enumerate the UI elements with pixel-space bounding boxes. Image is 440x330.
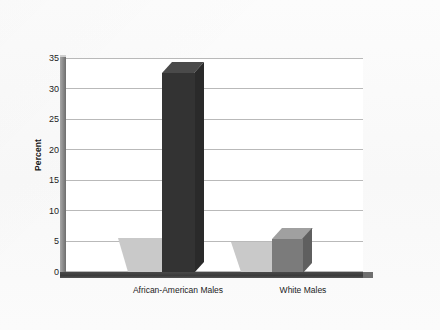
y-tick-label-30: 30 <box>33 85 59 94</box>
bar-side-face-white-males <box>302 228 314 276</box>
x-tick-label-african-american-males: African-American Males <box>103 285 253 295</box>
plot-area <box>66 58 363 272</box>
gridline-5 <box>66 241 363 242</box>
gridline-25 <box>66 119 363 120</box>
gridline-10 <box>66 210 363 211</box>
bar-shadow-white-males <box>231 242 277 274</box>
axis-floor <box>60 272 370 278</box>
bar-side-face-african-american-males <box>194 62 206 274</box>
axis-floor-right-edge <box>363 272 373 278</box>
bar-shadow-african-american-males <box>118 238 166 274</box>
y-axis-tick-labels: 35 30 25 20 15 10 5 0 <box>33 0 59 330</box>
bar-african-american-males[interactable] <box>162 73 195 273</box>
gridline-30 <box>66 88 363 89</box>
x-tick-label-white-males: White Males <box>238 285 368 295</box>
bar-chart-figure: Percent 35 30 25 20 15 10 5 0 <box>0 0 440 330</box>
gridline-35 <box>66 58 363 59</box>
bar-white-males[interactable] <box>272 239 303 273</box>
y-tick-label-35: 35 <box>33 54 59 63</box>
y-tick-label-25: 25 <box>33 115 59 124</box>
y-axis-wall <box>60 57 66 273</box>
y-tick-label-15: 15 <box>33 176 59 185</box>
gridline-20 <box>66 149 363 150</box>
y-tick-label-20: 20 <box>33 146 59 155</box>
y-tick-label-5: 5 <box>33 237 59 246</box>
y-tick-label-10: 10 <box>33 207 59 216</box>
y-tick-label-0: 0 <box>33 268 59 277</box>
gridline-15 <box>66 180 363 181</box>
